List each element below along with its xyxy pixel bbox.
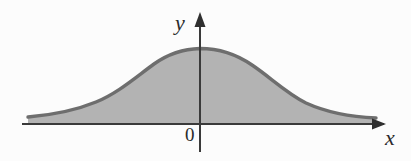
bell-curve-figure: y x 0 [0,0,411,161]
y-axis-label: y [175,12,185,34]
plot-canvas [0,0,411,161]
x-axis-arrowhead [372,119,386,130]
curve-area-fill [28,49,376,125]
x-axis-label: x [385,127,395,149]
origin-label: 0 [185,125,195,144]
y-axis-arrowhead [195,12,206,27]
